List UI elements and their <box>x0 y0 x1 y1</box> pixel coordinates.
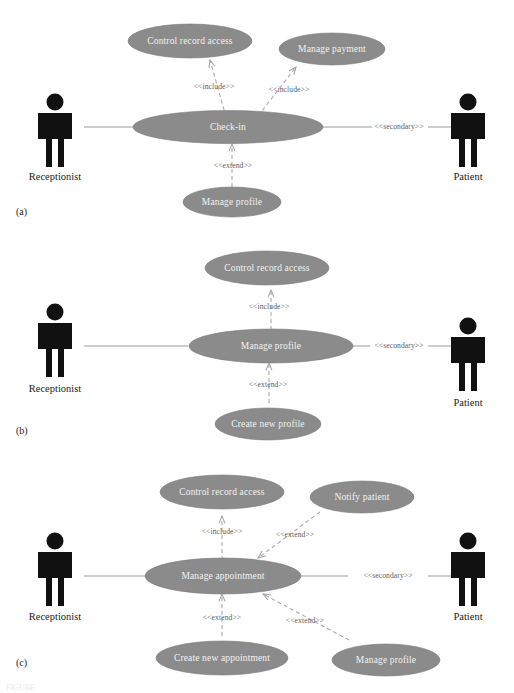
use-case-check-in-a[interactable]: Check-in <box>133 111 323 144</box>
use-case-manage-profile-a[interactable]: Manage profile <box>183 187 281 217</box>
stereotype-extend-label: <<extend>> <box>214 161 252 170</box>
use-case-label: Notify patient <box>334 492 389 502</box>
use-case-control-record-access-c[interactable]: Control record access <box>160 475 284 509</box>
actor-label: Patient <box>453 611 482 622</box>
use-case-manage-profile-b[interactable]: Manage profile <box>189 329 353 363</box>
use-case-label: Manage profile <box>202 197 262 207</box>
stereotype-include-label: <<include>> <box>249 302 290 311</box>
stereotype-secondary-label: <<secondary>> <box>374 122 423 131</box>
figure-caption-ghost: FIGURE <box>6 683 35 692</box>
use-case-notify-patient-c[interactable]: Notify patient <box>310 481 414 513</box>
stereotype-secondary-label: <<secondary>> <box>374 341 423 350</box>
stereotype-include-label: <<include>> <box>269 85 310 94</box>
use-case-label: Create new profile <box>231 419 304 429</box>
use-case-label: Manage profile <box>356 655 416 665</box>
stereotype-extend-label: <<extend>> <box>286 616 324 625</box>
use-case-manage-profile-c[interactable]: Manage profile <box>332 644 440 676</box>
actor-label: Receptionist <box>29 383 82 394</box>
stereotype-secondary-label: <<secondary>> <box>363 571 412 580</box>
stereotype-include-label: <<include>> <box>202 527 243 536</box>
stereotype-extend-label: <<extend>> <box>276 530 314 539</box>
use-case-manage-payment-a[interactable]: Manage payment <box>279 33 385 65</box>
use-case-label: Check-in <box>210 122 246 132</box>
use-case-create-new-profile-b[interactable]: Create new profile <box>215 408 321 440</box>
panel-label-a: (a) <box>16 206 27 218</box>
use-case-label: Manage payment <box>298 44 366 54</box>
use-case-diagram-figure: Control record access Manage payment Che… <box>0 0 514 693</box>
use-case-control-record-access-a[interactable]: Control record access <box>128 24 252 58</box>
use-case-label: Create new appointment <box>174 653 270 663</box>
use-case-label: Control record access <box>224 263 310 273</box>
use-case-control-record-access-b[interactable]: Control record access <box>205 251 329 285</box>
stereotype-include-label: <<include>> <box>194 82 235 91</box>
use-case-manage-appointment-c[interactable]: Manage appointment <box>145 558 301 594</box>
actor-label: Patient <box>453 171 482 182</box>
use-case-label: Control record access <box>147 36 233 46</box>
actor-label: Receptionist <box>29 171 82 182</box>
panel-label-c: (c) <box>16 657 27 669</box>
use-case-label: Manage appointment <box>181 571 264 581</box>
use-case-label: Manage profile <box>241 341 301 351</box>
panel-label-b: (b) <box>16 425 28 437</box>
stereotype-extend-label: <<extend>> <box>249 380 287 389</box>
actor-label: Receptionist <box>29 611 82 622</box>
use-case-label: Control record access <box>179 487 265 497</box>
use-case-create-new-appointment-c[interactable]: Create new appointment <box>156 641 288 675</box>
stereotype-extend-label: <<extend>> <box>203 613 241 622</box>
actor-label: Patient <box>453 397 482 408</box>
